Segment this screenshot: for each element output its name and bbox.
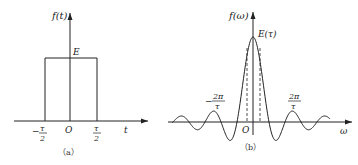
origin-label-b: O <box>242 125 250 135</box>
left-tick-den: 2 <box>39 134 45 143</box>
left-tick-num-b: 2π <box>212 92 224 101</box>
right-tick-den: 2 <box>93 134 99 143</box>
figure: f(t) E O t − τ 2 τ 2 （a） f(ω) E(τ) O ω −… <box>0 0 358 165</box>
y-label-ft: f(t) <box>51 10 68 21</box>
left-tick-sign-b: − <box>205 96 213 106</box>
panel-b-sinc: f(ω) E(τ) O ω − 2π τ 2π τ （b） <box>168 10 352 152</box>
caption-b: （b） <box>240 143 261 152</box>
left-tick-num: τ <box>40 124 45 133</box>
right-tick-den-b: τ <box>291 102 296 111</box>
pulse-shape <box>45 58 97 121</box>
caption-a: （a） <box>58 148 79 157</box>
peak-label: E(τ) <box>257 29 277 39</box>
left-tick-den-b: τ <box>215 102 220 111</box>
x-label-t: t <box>124 125 128 135</box>
x-label-omega: ω <box>340 126 348 136</box>
panel-a-rect-pulse: f(t) E O t − τ 2 τ 2 （a） <box>14 10 148 157</box>
left-tick-sign: − <box>32 126 40 136</box>
right-tick-num: τ <box>94 124 99 133</box>
right-tick-num-b: 2π <box>288 92 300 101</box>
y-label-fw: f(ω) <box>228 10 249 21</box>
sinc-curve <box>172 37 330 141</box>
origin-label: O <box>65 125 73 135</box>
height-label: E <box>72 47 80 57</box>
